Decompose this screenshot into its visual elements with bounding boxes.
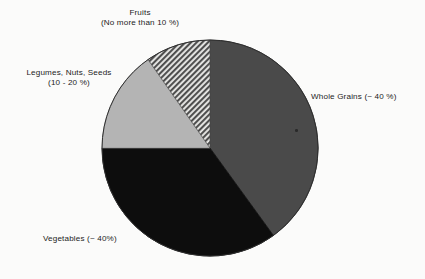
slice-label-whole-grains: Whole Grains (~ 40 %): [311, 92, 397, 102]
pie-chart-figure: Fruits (No more than 10 %) Legumes, Nuts…: [0, 0, 425, 279]
slice-label-fruits-line2: (No more than 10 %): [76, 18, 204, 28]
slice-label-legumes-line1: Legumes, Nuts, Seeds: [8, 68, 130, 78]
slice-label-legumes-nuts-seeds: Legumes, Nuts, Seeds (10 - 20 %): [8, 68, 130, 89]
slice-label-vegetables-line1: Vegetables (~ 40%): [43, 234, 117, 244]
slice-label-fruits: Fruits (No more than 10 %): [76, 8, 204, 29]
slice-label-vegetables: Vegetables (~ 40%): [43, 234, 117, 244]
scan-artifact-speck: [295, 129, 298, 132]
slice-label-legumes-line2: (10 - 20 %): [8, 78, 130, 88]
slice-label-fruits-line1: Fruits: [76, 8, 204, 18]
slice-label-whole-grains-line1: Whole Grains (~ 40 %): [311, 92, 397, 102]
